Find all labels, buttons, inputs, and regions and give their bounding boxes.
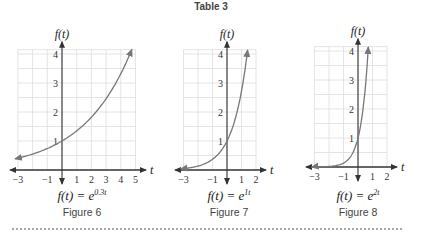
svg-text:2: 2 [53,107,58,118]
svg-text:2: 2 [349,104,354,115]
svg-text:t: t [401,160,405,174]
chart-figure-6: −3−1123451234f(t)t [10,27,154,185]
svg-text:2: 2 [385,171,390,182]
svg-text:4: 4 [118,174,123,185]
svg-text:f(t): f(t) [55,27,70,41]
equation-figure-8: f(t) = e2t [298,188,418,204]
svg-text:2: 2 [218,107,223,118]
svg-text:1: 1 [239,174,244,185]
svg-text:1: 1 [74,174,79,185]
caption-figure-8: Figure 8 [308,206,408,218]
svg-text:4: 4 [218,49,223,60]
svg-text:t: t [150,163,154,177]
svg-text:3: 3 [104,174,109,185]
clipped-body-text [12,228,402,233]
chart-figure-8: −3−1121234f(t)t [306,24,405,182]
svg-text:1: 1 [349,133,354,144]
svg-text:3: 3 [218,78,223,89]
svg-text:f(t): f(t) [351,24,366,38]
chart-figure-7: −3−1121234f(t)t [175,27,274,185]
equation-figure-6: f(t) = e0.3t [22,188,142,204]
svg-text:−1: −1 [338,171,349,182]
equation-figure-7: f(t) = e1t [169,188,289,204]
svg-text:t: t [270,163,274,177]
svg-text:4: 4 [53,49,58,60]
svg-text:−3: −3 [178,174,189,185]
svg-text:2: 2 [89,174,94,185]
caption-figure-6: Figure 6 [32,206,132,218]
svg-text:1: 1 [218,136,223,147]
svg-text:2: 2 [254,174,259,185]
svg-text:−3: −3 [309,171,320,182]
caption-figure-7: Figure 7 [179,206,279,218]
svg-text:−1: −1 [42,174,53,185]
svg-text:−1: −1 [207,174,218,185]
svg-text:3: 3 [349,75,354,86]
svg-text:−3: −3 [13,174,24,185]
svg-text:f(t): f(t) [220,27,235,41]
svg-text:1: 1 [370,171,375,182]
svg-text:3: 3 [53,78,58,89]
svg-text:4: 4 [349,46,354,57]
svg-text:5: 5 [133,174,138,185]
